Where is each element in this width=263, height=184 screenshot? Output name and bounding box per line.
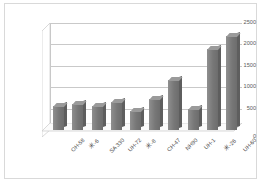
bar-front-face xyxy=(130,111,141,130)
y-axis-tick-label: 1000 xyxy=(226,84,256,90)
x-axis-tick-label: CH-47 xyxy=(165,137,181,153)
bar-series xyxy=(50,23,242,130)
x-axis-tick-label: 米-6 xyxy=(87,137,100,150)
bar-side-face xyxy=(83,100,86,127)
x-axis-tick-label: 米-8 xyxy=(145,137,158,150)
y-axis-tick-label: 2500 xyxy=(226,20,256,26)
bar-front-face xyxy=(207,49,218,130)
x-axis-labels: OH-58米-6SA 330UH-72米-8CH-47NH90UH-1米-26U… xyxy=(42,137,252,184)
y-axis-tick-label: 1500 xyxy=(226,63,256,69)
bar xyxy=(92,106,103,130)
bar-front-face xyxy=(188,109,199,130)
chart-container: 05001000150020002500 OH-58米-6SA 330UH-72… xyxy=(4,3,257,179)
plot-area xyxy=(42,23,242,137)
x-axis-tick-label: UH-72 xyxy=(127,137,143,153)
bar-front-face xyxy=(226,36,237,130)
bar xyxy=(111,102,122,130)
bar xyxy=(130,111,141,130)
bar-side-face xyxy=(179,76,182,127)
bar-side-face xyxy=(160,95,163,127)
bar xyxy=(188,109,199,130)
y-axis-tick-label: 2000 xyxy=(226,41,256,47)
bar-front-face xyxy=(92,106,103,130)
bar-front-face xyxy=(111,102,122,130)
bar xyxy=(168,80,179,131)
y-axis-tick-label: 500 xyxy=(226,106,256,112)
bar xyxy=(149,99,160,130)
bar xyxy=(72,104,83,130)
bar-front-face xyxy=(72,104,83,130)
bar-side-face xyxy=(218,45,221,127)
bar xyxy=(226,36,237,130)
bar-front-face xyxy=(168,80,179,131)
x-axis-tick-label: OH-58 xyxy=(69,137,85,153)
bar xyxy=(207,49,218,130)
x-axis-tick-label: NH90 xyxy=(184,137,198,151)
x-axis-tick-label: UH-1 xyxy=(203,137,216,150)
x-axis-tick-label: 米-26 xyxy=(222,137,238,153)
bar xyxy=(53,106,64,130)
bar-front-face xyxy=(149,99,160,130)
x-axis-tick-label: SA 330 xyxy=(108,137,125,154)
bar-front-face xyxy=(53,106,64,130)
x-axis-tick-label: UH-60 xyxy=(242,137,258,153)
